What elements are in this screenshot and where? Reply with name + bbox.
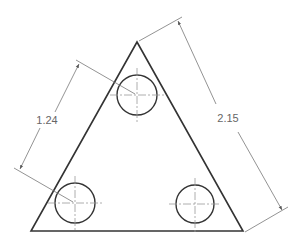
dimension-hole-spacing: 1.24 <box>14 60 135 202</box>
dimension-label-side: 2.15 <box>217 112 238 124</box>
dimension-label-spacing: 1.24 <box>36 114 57 126</box>
hole-bottom-right <box>169 178 221 232</box>
technical-drawing: 2.15 1.24 <box>0 0 300 246</box>
hole-bottom-left <box>48 176 102 232</box>
